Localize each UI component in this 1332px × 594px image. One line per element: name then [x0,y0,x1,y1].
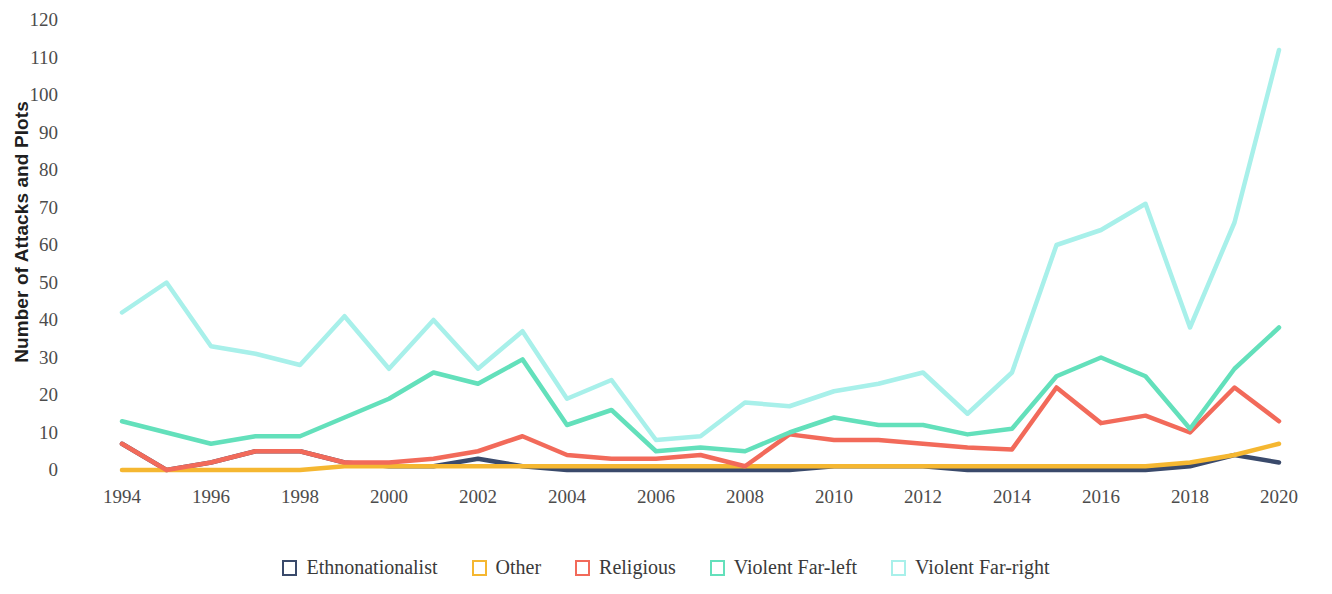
x-tick-label: 2000 [349,487,429,507]
chart-legend: EthnonationalistOtherReligiousViolent Fa… [0,556,1332,579]
legend-label: Other [496,556,542,579]
x-tick-label: 2018 [1150,487,1230,507]
legend-label: Violent Far-left [734,556,857,579]
legend-item[interactable]: Violent Far-right [891,556,1049,579]
legend-item[interactable]: Religious [575,556,676,579]
series-line [122,388,1279,471]
x-tick-label: 2020 [1239,487,1319,507]
legend-item[interactable]: Ethnonationalist [282,556,437,579]
x-tick-label: 2014 [972,487,1052,507]
legend-label: Violent Far-right [915,556,1049,579]
x-tick-label: 1996 [171,487,251,507]
legend-label: Ethnonationalist [306,556,437,579]
x-tick-label: 2010 [794,487,874,507]
legend-swatch-icon [710,560,725,576]
x-tick-label: 2008 [705,487,785,507]
x-tick-label: 2002 [438,487,518,507]
legend-swatch-icon [472,560,487,576]
x-tick-label: 2012 [883,487,963,507]
legend-swatch-icon [575,560,590,576]
line-chart: Number of Attacks and Plots 010203040506… [0,0,1332,594]
legend-item[interactable]: Violent Far-left [710,556,857,579]
series-line [122,328,1279,452]
legend-swatch-icon [282,560,297,576]
x-tick-label: 2004 [527,487,607,507]
series-line [122,50,1279,440]
legend-item[interactable]: Other [472,556,542,579]
x-tick-label: 2006 [616,487,696,507]
x-tick-label: 1998 [260,487,340,507]
x-tick-label: 2016 [1061,487,1141,507]
legend-swatch-icon [891,560,906,576]
legend-label: Religious [599,556,676,579]
x-tick-label: 1994 [82,487,162,507]
